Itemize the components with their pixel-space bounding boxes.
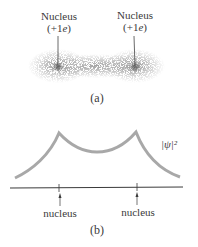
psi-squared-curve — [15, 132, 180, 178]
diagram-graphics — [0, 0, 198, 247]
psi-squared-label: |ψ|² — [157, 138, 181, 150]
caption-a: (a) — [82, 92, 112, 104]
caption-b: (b) — [82, 224, 112, 236]
arrow-right — [136, 192, 139, 205]
arrow-left — [59, 193, 62, 206]
position-axis — [10, 187, 183, 188]
nucleus-axis-label-left: nucleus — [38, 207, 82, 219]
electron-cloud — [28, 49, 165, 83]
nucleus-axis-label-right: nucleus — [116, 206, 160, 218]
